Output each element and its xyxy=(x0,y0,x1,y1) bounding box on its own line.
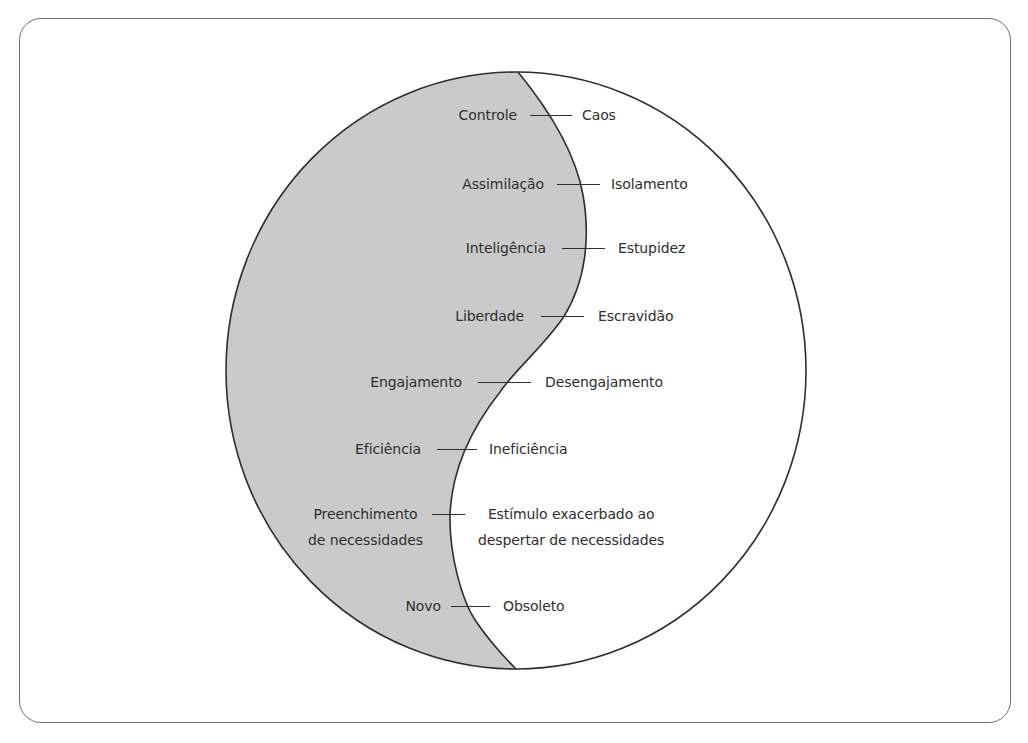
connector-line xyxy=(541,316,584,317)
right-label-caos: Caos xyxy=(582,102,616,128)
left-label-controle: Controle xyxy=(459,102,517,128)
connector-line xyxy=(432,514,465,515)
right-label-escravidao: Escravidão xyxy=(598,303,673,329)
left-label-assimilacao: Assimilação xyxy=(462,171,544,197)
connector-line xyxy=(478,382,531,383)
left-label-inteligencia: Inteligência xyxy=(466,235,546,261)
left-label-engajamento: Engajamento xyxy=(370,369,462,395)
connector-line xyxy=(437,449,477,450)
right-label-ineficiencia: Ineficiência xyxy=(489,436,567,462)
right-label-obsoleto: Obsoleto xyxy=(503,593,565,619)
left-label-preenchimento: Preenchimento de necessidades xyxy=(308,501,423,553)
right-label-estimulo: Estímulo exacerbado ao despertar de nece… xyxy=(478,501,664,553)
right-label-desengajamento: Desengajamento xyxy=(545,369,663,395)
left-label-eficiencia: Eficiência xyxy=(355,436,421,462)
connector-line xyxy=(530,115,572,116)
left-label-liberdade: Liberdade xyxy=(455,303,524,329)
left-label-novo: Novo xyxy=(406,593,442,619)
right-label-estupidez: Estupidez xyxy=(618,235,685,261)
connector-line xyxy=(557,184,600,185)
connector-line xyxy=(451,606,490,607)
connector-line xyxy=(562,248,605,249)
right-label-isolamento: Isolamento xyxy=(611,171,688,197)
